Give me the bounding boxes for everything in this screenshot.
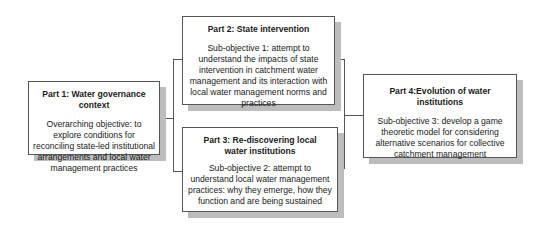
part3-title: Part 3: Re-discovering local water insti…	[187, 135, 333, 157]
part2-box: Part 2: State intervention Sub-objective…	[182, 16, 335, 105]
connector-to-part3	[173, 171, 182, 172]
part1-text: Overarching objective: to explore condit…	[33, 119, 155, 174]
part2-title: Part 2: State intervention	[187, 24, 330, 35]
connector-to-part4	[344, 115, 363, 116]
connector-left-vertical	[173, 59, 174, 172]
part1-box: Part 1: Water governance context Overarc…	[28, 81, 160, 155]
part4-title: Part 4:Evolution of water institutions	[368, 86, 512, 108]
part1-title: Part 1: Water governance context	[33, 89, 155, 111]
part4-text: Sub-objective 3: develop a game theoreti…	[368, 116, 512, 160]
part2-text: Sub-objective 1: attempt to understand t…	[187, 43, 330, 109]
part4-box: Part 4:Evolution of water institutions S…	[363, 74, 517, 158]
connector-right-vertical	[344, 59, 345, 169]
part3-box: Part 3: Re-discovering local water insti…	[182, 127, 338, 212]
connector-part1-horizontal	[159, 118, 174, 119]
connector-to-part2	[173, 59, 182, 60]
part3-text: Sub-objective 2: attempt to understand l…	[187, 163, 333, 207]
